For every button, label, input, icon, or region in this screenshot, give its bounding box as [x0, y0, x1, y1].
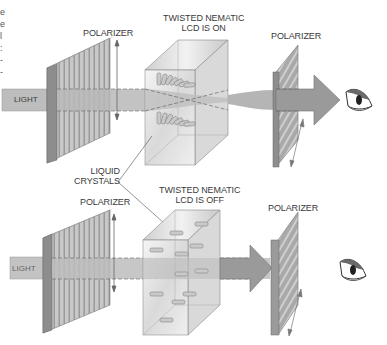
panel-lcd-off — [10, 208, 366, 336]
lcd-label-bottom-line1: TWISTED NEMATIC — [159, 185, 240, 195]
twisted-nematic-lcd-on — [145, 40, 228, 165]
panel-lcd-on — [2, 36, 372, 167]
lcd-label-top: TWISTED NEMATIC LCD IS ON — [163, 13, 244, 33]
lcd-label-top-line2: LCD IS ON — [182, 23, 226, 33]
eye-icon — [346, 89, 372, 110]
rear-polarizer-label-top: POLARIZER — [271, 31, 321, 41]
light-blocked-arrow — [220, 245, 272, 292]
lcd-diagram — [0, 0, 387, 345]
liquid-crystals-label: LIQUID CRYSTALS — [74, 166, 120, 186]
lcd-label-bottom-line2: LCD IS OFF — [175, 195, 224, 205]
front-polarizer-label-bottom: POLARIZER — [80, 197, 130, 207]
twisted-nematic-lcd-off — [143, 210, 220, 335]
liquid-crystals-label-line1: LIQUID — [90, 166, 119, 176]
eye-icon — [340, 259, 366, 280]
light-beam — [57, 89, 160, 111]
light-label-bottom: LIGHT — [12, 264, 36, 273]
lcd-label-bottom: TWISTED NEMATIC LCD IS OFF — [159, 185, 240, 205]
light-label-top: LIGHT — [14, 95, 38, 104]
rear-polarizer-label-bottom: POLARIZER — [268, 203, 318, 213]
front-polarizer-label-top: POLARIZER — [83, 28, 133, 38]
polarization-arrow-icon — [112, 214, 116, 292]
lcd-label-top-line1: TWISTED NEMATIC — [163, 13, 244, 23]
liquid-crystals-label-line2: CRYSTALS — [74, 176, 120, 186]
